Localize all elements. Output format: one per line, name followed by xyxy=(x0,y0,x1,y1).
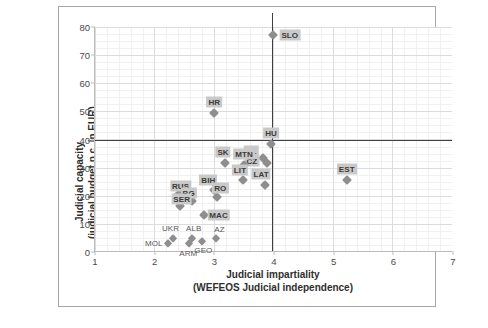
data-point[interactable] xyxy=(212,192,222,202)
data-point-label: LAT xyxy=(251,168,270,179)
data-point-label: HR xyxy=(206,96,222,107)
data-point[interactable] xyxy=(220,158,230,168)
x-axis-title-line1: Judicial impartiality xyxy=(94,268,452,281)
x-tick-label: 1 xyxy=(92,256,97,267)
data-point-label: EST xyxy=(337,164,357,175)
data-point-label: ALB xyxy=(184,222,203,233)
reference-line-horizontal xyxy=(95,140,452,141)
x-tick-mark xyxy=(95,251,96,255)
data-point-label: SER xyxy=(171,193,192,204)
y-tick-label: 70 xyxy=(79,50,90,61)
data-point[interactable] xyxy=(238,175,248,185)
data-point-label: AZ xyxy=(212,223,226,234)
y-tick-label: 60 xyxy=(79,78,90,89)
data-point-label: LIT xyxy=(232,165,248,176)
data-point-label: UKR xyxy=(160,222,181,233)
y-tick-mark xyxy=(91,55,95,56)
y-tick-label: 80 xyxy=(79,22,90,33)
x-tick-label: 3 xyxy=(212,256,217,267)
y-tick-label: 50 xyxy=(79,106,90,117)
x-tick-label: 5 xyxy=(331,256,336,267)
data-point-label: MAC xyxy=(207,210,230,221)
data-point-label: SK xyxy=(215,147,230,158)
x-axis-title-line2: (WEFEOS Judicial independence) xyxy=(94,281,452,294)
data-point[interactable] xyxy=(260,180,270,190)
y-tick-label: 0 xyxy=(85,247,90,258)
y-tick-mark xyxy=(91,195,95,196)
y-tick-mark xyxy=(91,167,95,168)
y-tick-label: 20 xyxy=(79,190,90,201)
y-axis-title-line1: Judicial capacity xyxy=(74,142,85,222)
x-tick-mark xyxy=(274,251,275,255)
data-point-label: MOL xyxy=(143,238,165,249)
chart-page: Judicial capacity (judicial budget p.c. … xyxy=(0,0,488,328)
y-tick-label: 10 xyxy=(79,218,90,229)
data-point-label: HU xyxy=(263,127,279,138)
y-tick-mark xyxy=(91,111,95,112)
x-axis-title: Judicial impartiality (WEFEOS Judicial i… xyxy=(94,268,452,294)
x-tick-mark xyxy=(393,251,394,255)
y-tick-label: 40 xyxy=(79,134,90,145)
data-point[interactable] xyxy=(268,30,278,40)
plot-area: 01020304050607080 1234567 SLOHRHUPLCZMTN… xyxy=(94,27,452,252)
x-tick-mark xyxy=(333,251,334,255)
data-point[interactable] xyxy=(212,234,220,242)
x-tick-label: 4 xyxy=(271,256,276,267)
data-point-label: RO xyxy=(212,183,228,194)
x-tick-label: 7 xyxy=(450,256,455,267)
data-point[interactable] xyxy=(262,158,272,168)
y-tick-mark xyxy=(91,223,95,224)
data-point[interactable] xyxy=(342,175,352,185)
x-tick-mark xyxy=(154,251,155,255)
x-tick-label: 2 xyxy=(152,256,157,267)
x-tick-label: 6 xyxy=(391,256,396,267)
y-tick-mark xyxy=(91,83,95,84)
data-point-label: MTN xyxy=(233,148,255,159)
data-point-label: ARM xyxy=(177,248,199,259)
data-point[interactable] xyxy=(209,108,219,118)
data-point-label: SLO xyxy=(279,30,300,41)
x-tick-mark xyxy=(453,251,454,255)
y-tick-label: 30 xyxy=(79,162,90,173)
y-tick-mark xyxy=(91,27,95,28)
